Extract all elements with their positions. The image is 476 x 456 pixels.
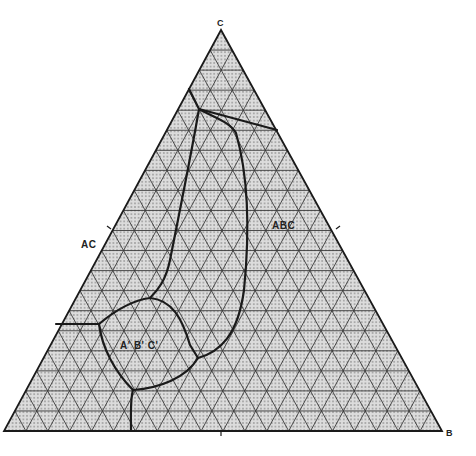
vertex-c-label: C (217, 19, 224, 28)
vertex-b-label: B (446, 429, 453, 438)
edge-ac-label: AC (81, 240, 96, 250)
ternary-diagram (0, 0, 476, 456)
tick-mark (336, 226, 340, 229)
region-abc-label: ABC (272, 221, 295, 231)
tick-mark (107, 226, 111, 229)
region-a-b-c-prime-label: A' B' C' (120, 341, 158, 351)
